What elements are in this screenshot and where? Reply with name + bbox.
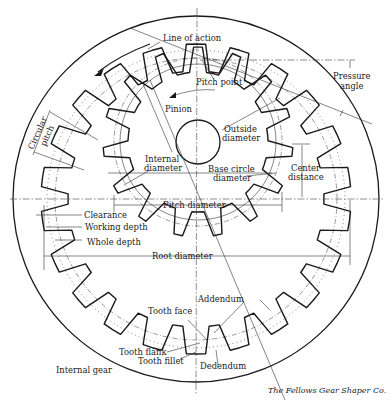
internal-diameter-leader [143, 84, 172, 152]
label-line-of-action: Line of action [163, 33, 222, 43]
addendum-leader [214, 302, 244, 333]
tooth-face-leader [188, 320, 207, 340]
label-dedendum: Dedendum [200, 361, 246, 371]
label-working-depth: Working depth [85, 222, 148, 232]
label-tooth-face: Tooth face [148, 306, 192, 316]
label-outside-diameter-2: diameter [222, 133, 260, 143]
line-of-action-pointer [148, 42, 160, 49]
credit-line: The Fellows Gear Shaper Co. [268, 386, 386, 395]
label-internal-diameter-2: diameter [144, 163, 182, 173]
pressure-angle-tick-2 [340, 110, 343, 116]
pinion-rotation-arrow [172, 90, 215, 96]
label-pressure-angle-2: angle [340, 81, 363, 91]
label-root-diameter: Root diameter [152, 251, 213, 261]
label-internal-gear: Internal gear [56, 365, 112, 375]
arrowhead-icon [169, 92, 176, 98]
tooth-flank-leader [167, 343, 200, 352]
label-addendum: Addendum [197, 294, 244, 304]
label-pressure-angle-1: Pressure [333, 71, 371, 81]
gear-diagram: Line of action Pressure angle Pitch poin… [0, 0, 390, 400]
label-base-circle-2: diameter [213, 173, 251, 183]
label-pitch-diameter: Pitch diameter [163, 200, 226, 210]
label-pitch-point: Pitch point [196, 77, 243, 87]
addendum-leader-2 [260, 300, 270, 310]
label-clearance: Clearance [84, 210, 127, 220]
label-tooth-fillet: Tooth fillet [138, 356, 184, 366]
line-of-action-extension [150, 80, 285, 400]
label-pinion: Pinion [165, 104, 192, 114]
label-whole-depth: Whole depth [87, 237, 141, 247]
label-center-distance-2: distance [288, 172, 324, 182]
